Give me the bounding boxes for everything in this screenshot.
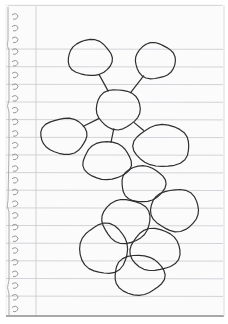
paper-sheet [6,5,224,316]
notebook-page [0,0,228,324]
